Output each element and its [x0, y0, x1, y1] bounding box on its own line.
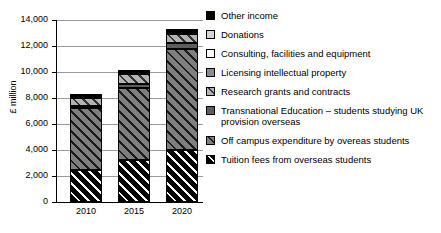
bar-segment-other-income-2010	[70, 94, 102, 96]
y-tick-label: 2,000	[2, 171, 48, 180]
bar-segment-other-income-2015	[118, 70, 150, 72]
bars-area	[56, 20, 203, 202]
y-tick-label: 14,000	[2, 15, 48, 24]
legend-label: Consulting, facilities and equipment	[221, 48, 370, 59]
legend-label: Licensing intellectual property	[221, 67, 346, 78]
x-tick-label-2015: 2015	[112, 206, 156, 216]
bar-segment-research-grants-2015	[118, 74, 150, 84]
swatch-donations-icon	[206, 30, 215, 39]
swatch-licensing-icon	[206, 68, 215, 77]
legend-item-donations[interactable]: Donations	[206, 29, 441, 40]
x-tick-label-2020: 2020	[160, 206, 204, 216]
bar-segment-research-grants-2020	[166, 34, 198, 44]
y-tick-label: 0	[2, 197, 48, 206]
bar-segment-transnational-education-2020	[166, 43, 198, 48]
legend-label: Tuition fees from overseas students	[221, 154, 371, 165]
legend-item-tuition[interactable]: Tuition fees from overseas students	[206, 154, 441, 165]
bar-2015	[118, 20, 150, 202]
bar-segment-research-grants-2010	[70, 98, 102, 106]
bar-segment-off-campus-expenditure-2015	[118, 88, 150, 161]
bar-segment-transnational-education-2010	[70, 106, 102, 109]
y-tick-label: 6,000	[2, 119, 48, 128]
legend-label: Other income	[221, 10, 278, 21]
bar-segment-tuition-fees-2010	[70, 170, 102, 203]
gridline-0	[56, 202, 203, 203]
legend-item-research[interactable]: Research grants and contracts	[206, 86, 441, 97]
bar-segment-other-income-2020	[166, 29, 198, 31]
y-tick-label: 4,000	[2, 145, 48, 154]
bar-segment-off-campus-expenditure-2010	[70, 108, 102, 169]
bar-2020	[166, 20, 198, 202]
chart-legend: Other incomeDonationsConsulting, facilit…	[206, 10, 441, 173]
y-tick-0	[52, 202, 57, 203]
swatch-tuition-icon	[206, 155, 215, 164]
legend-label: Off campus expenditure by overeas studen…	[221, 135, 409, 146]
bar-segment-transnational-education-2015	[118, 84, 150, 87]
legend-item-licensing[interactable]: Licensing intellectual property	[206, 67, 441, 78]
legend-item-transnational[interactable]: Transnational Education – students study…	[206, 105, 441, 127]
swatch-offcampus-icon	[206, 136, 215, 145]
bar-2010	[70, 20, 102, 202]
bar-segment-tuition-fees-2015	[118, 160, 150, 202]
swatch-other-income-icon	[206, 11, 215, 20]
bar-segment-tuition-fees-2020	[166, 150, 198, 202]
legend-item-other-income[interactable]: Other income	[206, 10, 441, 21]
swatch-consulting-icon	[206, 49, 215, 58]
legend-item-offcampus[interactable]: Off campus expenditure by overeas studen…	[206, 135, 441, 146]
legend-label: Donations	[221, 29, 264, 40]
legend-label: Research grants and contracts	[221, 86, 350, 97]
plot-region: £ million 02,0004,0006,0008,00010,00012,…	[0, 0, 210, 233]
y-tick-label: 12,000	[2, 41, 48, 50]
legend-label: Transnational Education – students study…	[221, 105, 441, 127]
y-tick-label: 8,000	[2, 93, 48, 102]
y-tick-label: 10,000	[2, 67, 48, 76]
legend-item-consulting[interactable]: Consulting, facilities and equipment	[206, 48, 441, 59]
bar-segment-off-campus-expenditure-2020	[166, 49, 198, 150]
swatch-research-icon	[206, 87, 215, 96]
swatch-transnational-icon	[206, 106, 215, 115]
stacked-bar-chart: £ million 02,0004,0006,0008,00010,00012,…	[0, 0, 441, 233]
x-tick-label-2010: 2010	[64, 206, 108, 216]
